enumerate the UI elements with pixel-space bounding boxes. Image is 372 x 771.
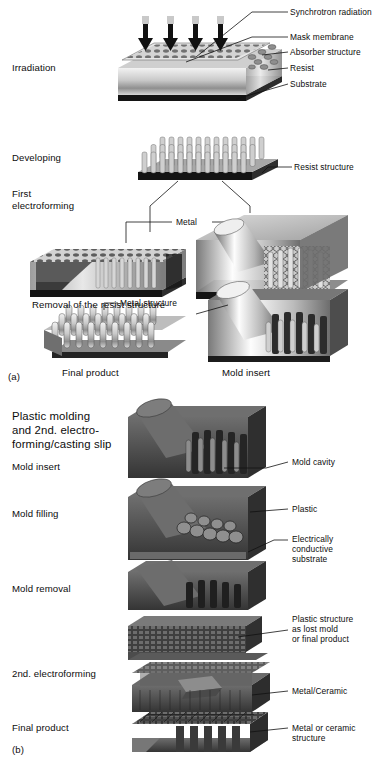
mold-insert-illustration: [196, 278, 348, 362]
b-mold-removal-illustration: [128, 560, 288, 660]
panel-marker-a: (a): [8, 371, 20, 382]
b-final-product-illustration: [132, 712, 288, 752]
first-electroforming-right-illustration: [196, 215, 348, 299]
stage-label-first-electroforming-line2: electroforming: [12, 200, 74, 211]
stage-label-irradiation: Irradiation: [12, 62, 56, 73]
b-callout-metal-or-ceramic-structure-line1: Metal or ceramic: [292, 723, 356, 733]
b-stage-label-mold-removal: Mold removal: [12, 583, 71, 594]
b-callout-metal-or-ceramic-structure-line2: structure: [292, 733, 325, 743]
callout-absorber-structure: Absorber structure: [290, 47, 361, 57]
first-electroforming-left-illustration: [30, 249, 186, 297]
callout-mask-membrane: Mask membrane: [290, 32, 354, 42]
b-mold-insert-illustration: [128, 395, 288, 478]
callout-metal: Metal: [176, 217, 197, 227]
callout-resist-structure: Resist structure: [294, 162, 354, 172]
callout-metal-structure: Metal structure: [120, 298, 177, 308]
callout-resist: Resist: [290, 63, 314, 73]
panel-marker-b: (b): [12, 744, 24, 755]
callout-substrate: Substrate: [290, 79, 327, 89]
b-callout-mold-cavity: Mold cavity: [292, 457, 335, 467]
b-callout-plastic-structure-line1: Plastic structure: [292, 614, 353, 624]
b-stage-label-mold-insert: Mold insert: [12, 461, 60, 472]
panel-b-heading-line3: forming/casting slip: [12, 438, 112, 451]
b-callout-plastic-structure-line3: or final product: [292, 634, 349, 644]
callout-synchrotron-radiation: Synchrotron radiation: [290, 7, 372, 17]
b-stage-label-final-product: Final product: [12, 722, 69, 733]
panel-b-heading-line1: Plastic molding: [12, 410, 90, 423]
final-product-illustration: [44, 303, 186, 358]
b-callout-substrate-line2: conductive: [292, 544, 333, 554]
caption-mold-insert-a: Mold insert: [222, 367, 270, 378]
b-callout-plastic: Plastic: [292, 504, 317, 514]
panel-b-heading-line2: and 2nd. electro-: [12, 424, 99, 437]
stage-label-first-electroforming-line1: First: [12, 188, 31, 199]
b-mold-filling-illustration: [128, 475, 288, 560]
b-callout-substrate-line1: Electrically: [292, 534, 333, 544]
b-callout-metal-ceramic: Metal/Ceramic: [292, 686, 347, 696]
b-stage-label-2nd-electroforming: 2nd. electroforming: [12, 668, 96, 679]
b-stage-label-mold-filling: Mold filling: [12, 508, 59, 519]
caption-final-product-a: Final product: [62, 367, 119, 378]
stage-label-developing: Developing: [12, 152, 61, 163]
b-second-electroforming-illustration: [132, 662, 288, 712]
b-callout-substrate-line3: substrate: [292, 554, 327, 564]
b-callout-plastic-structure-line2: as lost mold: [292, 624, 338, 634]
irradiation-illustration: [118, 12, 288, 101]
